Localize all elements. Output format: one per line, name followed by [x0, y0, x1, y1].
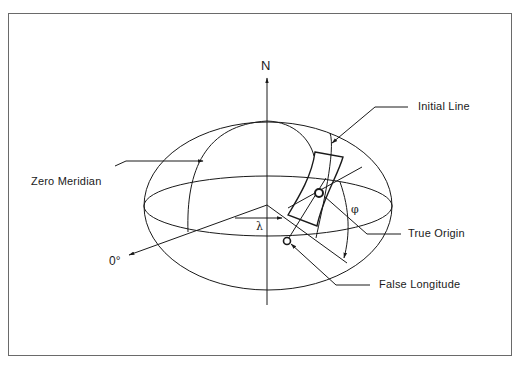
initial-line-leader — [332, 107, 408, 143]
north-label: N — [261, 59, 270, 72]
lambda-symbol: λ — [256, 221, 263, 232]
false-longitude-label: False Longitude — [379, 279, 460, 290]
phi-symbol: φ — [351, 204, 359, 215]
projection-patch — [288, 152, 343, 226]
zero-meridian-label: Zero Meridian — [31, 176, 101, 187]
radial-line — [267, 205, 347, 263]
phi-arrow — [340, 182, 348, 258]
true-origin-leader — [324, 196, 401, 234]
true-origin-marker — [315, 189, 323, 197]
zero-degree-label: 0° — [109, 255, 121, 267]
initial-line-label: Initial Line — [418, 101, 470, 112]
true-origin-label: True Origin — [408, 228, 465, 239]
diagram-canvas: N Initial Line Zero Meridian True Origin… — [0, 0, 523, 367]
false-to-true-line — [287, 178, 326, 241]
false-origin-marker — [284, 238, 291, 245]
